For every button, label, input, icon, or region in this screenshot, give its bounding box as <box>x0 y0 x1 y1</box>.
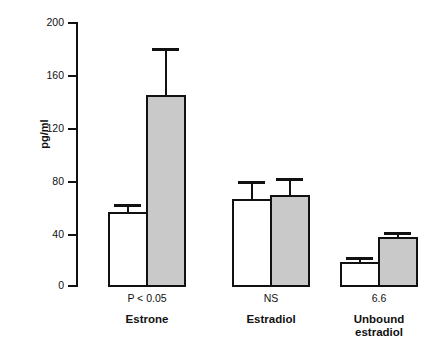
bar-estradiol-open <box>232 199 272 287</box>
annotation-estrone: P < 0.05 <box>107 292 187 304</box>
bar-chart-figure: pg/ml 200 160 120 80 40 0 <box>0 0 435 345</box>
group-label-unbound-estradiol-line2: estradiol <box>339 326 419 339</box>
bar-estrone-filled <box>146 95 186 287</box>
bar-estrone-open <box>108 212 148 287</box>
errorbar-cap-estrone-filled <box>152 48 179 51</box>
bar-estradiol-filled <box>270 195 310 287</box>
group-label-unbound-estradiol-line1: Unbound <box>339 313 419 326</box>
group-label-unbound-estradiol: Unbound estradiol <box>339 313 419 339</box>
annotation-unbound-estradiol: 6.6 <box>339 292 419 304</box>
annotation-estradiol: NS <box>231 292 311 304</box>
bar-unbound-estradiol-open <box>340 262 380 287</box>
errorbar-cap-unbound-estradiol-filled <box>384 232 411 235</box>
errorbar-cap-estrone-open <box>114 204 141 207</box>
errorbar-stem-estradiol-open <box>251 181 253 201</box>
errorbar-cap-unbound-estradiol-open <box>346 257 373 260</box>
errorbar-cap-estradiol-filled <box>276 178 303 181</box>
group-label-estradiol: Estradiol <box>231 313 311 326</box>
group-label-estrone: Estrone <box>107 313 187 326</box>
errorbar-cap-estradiol-open <box>238 181 265 184</box>
bar-unbound-estradiol-filled <box>378 237 418 287</box>
errorbar-stem-estrone-filled <box>165 48 167 97</box>
